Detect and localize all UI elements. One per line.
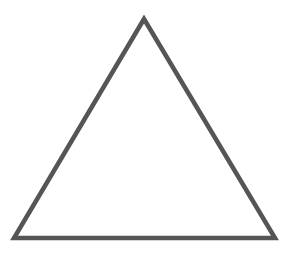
triangle-diagram — [0, 0, 287, 255]
diagram-canvas — [0, 0, 287, 255]
triangle-shape — [14, 19, 275, 238]
